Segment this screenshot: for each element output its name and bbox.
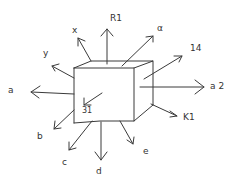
label-b: b [37, 132, 43, 141]
label-y: y [43, 49, 48, 58]
label-14: 14 [190, 44, 201, 53]
cube-vector-diagram: R1 x y α 14 a a 2 K1 b c d e 31 [0, 0, 234, 182]
label-c: c [62, 158, 67, 167]
label-e: e [143, 147, 149, 156]
label-a: a [8, 86, 14, 95]
label-center: 31 [82, 107, 92, 115]
arrow-e [120, 121, 134, 144]
inner-arrow [84, 93, 102, 105]
arrow-y [52, 64, 74, 78]
arrow-a [31, 86, 74, 98]
arrow-c [69, 121, 92, 150]
label-a2: a 2 [210, 82, 224, 91]
label-r1: R1 [110, 14, 122, 23]
arrow-k1 [151, 104, 177, 117]
arrow-a2 [140, 80, 204, 94]
arrow-b [54, 110, 74, 129]
arrow-x [78, 38, 91, 61]
label-x: x [72, 26, 77, 35]
label-alpha: α [157, 24, 163, 33]
label-k1: K1 [183, 113, 195, 122]
diagram-canvas [0, 0, 234, 182]
label-d: d [96, 167, 102, 176]
arrow-14 [144, 56, 182, 79]
arrow-r1 [101, 29, 113, 64]
arrow-d [95, 122, 107, 160]
